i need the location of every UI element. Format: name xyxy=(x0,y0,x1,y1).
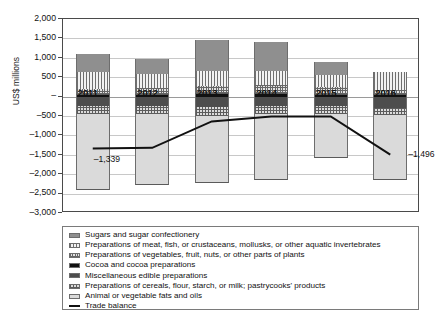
legend-swatch-icon xyxy=(69,305,80,307)
legend-swatch-icon xyxy=(69,233,80,238)
legend-label: Preparations of meat, fish, or crustacea… xyxy=(85,241,381,250)
legend-item[interactable]: Animal or vegetable fats and oils xyxy=(69,291,418,301)
trade-balance-line xyxy=(63,19,420,213)
legend-label: Preparations of vegetables, fruit, nuts,… xyxy=(85,251,305,260)
y-tick-label: –500 xyxy=(0,111,56,120)
trade-balance-polyline xyxy=(93,116,391,154)
legend: Sugars and sugar confectioneryPreparatio… xyxy=(62,226,419,310)
legend-item[interactable]: Miscellaneous edible preparations xyxy=(69,271,418,281)
legend-label: Animal or vegetable fats and oils xyxy=(85,292,202,301)
y-tick-label: 1,000 xyxy=(0,53,56,62)
y-tick-label: – xyxy=(0,91,56,100)
legend-item[interactable]: Preparations of meat, fish, or crustacea… xyxy=(69,240,418,250)
legend-item[interactable]: Sugars and sugar confectionery xyxy=(69,230,418,240)
data-point-label: –1,496 xyxy=(408,149,434,159)
legend-swatch-icon xyxy=(69,294,80,299)
legend-label: Miscellaneous edible preparations xyxy=(85,272,207,281)
legend-item[interactable]: Trade balance xyxy=(69,301,418,311)
legend-swatch-icon xyxy=(69,263,80,268)
legend-item[interactable]: Cocoa and cocoa preparations xyxy=(69,261,418,271)
y-tick-label: –1,000 xyxy=(0,130,56,139)
legend-swatch-icon xyxy=(69,284,80,289)
data-point-label: –1,339 xyxy=(94,154,120,164)
legend-label: Sugars and sugar confectionery xyxy=(85,231,199,240)
legend-swatch-icon xyxy=(69,253,80,258)
y-tick-mark xyxy=(58,212,62,213)
y-tick-label: 2,000 xyxy=(0,14,56,23)
y-tick-label: –1,500 xyxy=(0,150,56,159)
legend-item[interactable]: Preparations of cereals, flour, starch, … xyxy=(69,281,418,291)
y-tick-label: –3,000 xyxy=(0,208,56,217)
y-tick-label: –2,500 xyxy=(0,188,56,197)
plot-area: 201120122013201420152016 xyxy=(62,18,419,212)
legend-item[interactable]: Preparations of vegetables, fruit, nuts,… xyxy=(69,250,418,260)
y-tick-label: –2,000 xyxy=(0,169,56,178)
y-tick-label: 1,500 xyxy=(0,33,56,42)
legend-label: Preparations of cereals, flour, starch, … xyxy=(85,282,325,291)
legend-swatch-icon xyxy=(69,243,80,248)
legend-swatch-icon xyxy=(69,273,80,278)
y-tick-label: 500 xyxy=(0,72,56,81)
legend-label: Trade balance xyxy=(85,302,136,311)
y-axis: US$ millions 2,0001,5001,000500––500–1,0… xyxy=(0,18,60,212)
legend-label: Cocoa and cocoa preparations xyxy=(85,261,195,270)
